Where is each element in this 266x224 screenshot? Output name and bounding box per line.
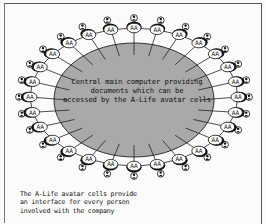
central-label-line: accessed by the A-Life avatar cells: [62, 95, 212, 104]
cell-label: AA: [107, 160, 115, 167]
cell-label: AA: [195, 39, 203, 46]
cell-label: AA: [37, 123, 45, 130]
avatar-cell: AA: [57, 33, 76, 48]
avatar-cell: AA: [221, 61, 242, 72]
avatar-cell: AA: [231, 92, 252, 102]
avatar-cell: AA: [172, 154, 189, 170]
caption-line: involved with the company: [20, 207, 220, 215]
diagram-caption: The A-Life avatar cells provide an inter…: [20, 190, 220, 215]
cell-label: AA: [224, 123, 232, 130]
cell-label: AA: [65, 147, 73, 154]
avatar-cell: AA: [16, 92, 37, 102]
cell-label: AA: [212, 50, 220, 57]
avatar-cell: AA: [26, 61, 47, 72]
cell-label: AA: [65, 39, 73, 46]
person-icon: [157, 17, 164, 24]
avatar-cell: AA: [57, 146, 76, 161]
cell-label: AA: [29, 78, 37, 85]
person-icon: [131, 15, 138, 22]
person-icon: [131, 173, 138, 180]
cell-label: AA: [130, 162, 138, 169]
person-icon: [157, 170, 164, 177]
avatar-cell: AA: [18, 107, 39, 117]
cell-label: AA: [26, 93, 34, 100]
cell-label: AA: [85, 155, 93, 162]
avatar-cell: AA: [103, 17, 118, 35]
avatar-cell: AA: [208, 46, 228, 59]
person-icon: [104, 170, 111, 177]
avatar-cell: AA: [126, 161, 141, 179]
central-computer-label: Central main computer providing document…: [62, 77, 212, 104]
avatar-cell: AA: [208, 135, 228, 148]
cell-label: AA: [224, 63, 232, 70]
avatar-cell: AA: [40, 135, 60, 148]
caption-line: an interface for every person: [20, 198, 220, 206]
cell-label: AA: [234, 93, 242, 100]
diagram-frame: AAAAAAAAAAAAAAAAAAAAAAAAAAAAAAAAAAAAAAAA…: [0, 0, 266, 224]
person-icon: [182, 23, 189, 30]
central-label-line: documents which can be: [62, 86, 212, 95]
avatar-cell: AA: [192, 146, 211, 161]
avatar-cell: AA: [221, 122, 242, 133]
avatar-cell: AA: [40, 46, 60, 59]
avatar-cell: AA: [150, 17, 165, 35]
cell-label: AA: [130, 24, 138, 31]
person-icon: [79, 23, 86, 30]
person-icon: [182, 164, 189, 171]
person-icon: [79, 164, 86, 171]
cell-label: AA: [107, 26, 115, 33]
central-label-line: Central main computer providing: [62, 77, 212, 86]
cell-label: AA: [212, 136, 220, 143]
avatar-cell: AA: [150, 159, 165, 177]
avatar-cell: AA: [126, 15, 141, 33]
cell-label: AA: [37, 63, 45, 70]
cell-label: AA: [232, 78, 240, 85]
avatar-cell: AA: [103, 159, 118, 177]
avatar-cell: AA: [172, 23, 189, 39]
cell-label: AA: [175, 155, 183, 162]
avatar-cell: AA: [228, 76, 249, 86]
cell-label: AA: [195, 147, 203, 154]
cell-label: AA: [153, 160, 161, 167]
avatar-cell: AA: [192, 33, 211, 48]
avatar-cell: AA: [79, 23, 96, 39]
avatar-cell: AA: [79, 154, 96, 170]
caption-line: The A-Life avatar cells provide: [20, 190, 220, 198]
avatar-cell: AA: [228, 107, 249, 117]
cell-label: AA: [175, 31, 183, 38]
cell-label: AA: [232, 109, 240, 116]
person-icon: [104, 17, 111, 24]
cell-label: AA: [153, 26, 161, 33]
cell-label: AA: [49, 136, 57, 143]
cell-label: AA: [29, 109, 37, 116]
cell-label: AA: [85, 31, 93, 38]
avatar-cell: AA: [26, 122, 47, 133]
cell-label: AA: [49, 50, 57, 57]
avatar-cell: AA: [18, 76, 39, 86]
